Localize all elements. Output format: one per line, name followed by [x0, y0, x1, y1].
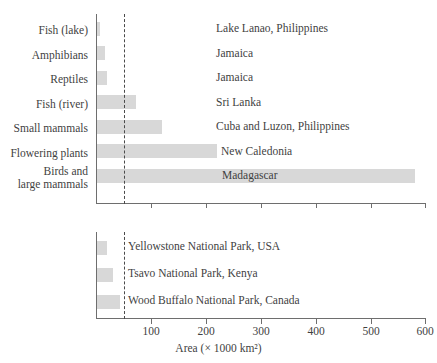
category-label: Birds and large mammals	[0, 165, 88, 190]
annotation-label: Jamaica	[216, 47, 253, 60]
x-tick-label: 300	[241, 325, 281, 337]
annotation-label: New Caledonia	[221, 145, 292, 158]
reference-line	[124, 232, 125, 319]
upper-axis-tick	[425, 204, 426, 208]
x-axis-tick	[206, 319, 207, 324]
annotation-label: Yellowstone National Park, USA	[128, 240, 280, 253]
bar-small-mammals	[97, 120, 162, 134]
upper-axis-tick	[151, 204, 152, 208]
category-label: Fish (lake)	[0, 24, 88, 37]
bar-fish-river	[97, 95, 136, 109]
bar-flowering-plants	[97, 144, 217, 158]
upper-axis-tick	[316, 204, 317, 208]
upper-axis-tick	[261, 204, 262, 208]
upper-axis-tick	[206, 204, 207, 208]
x-tick-label: 500	[351, 325, 391, 337]
category-label: Flowering plants	[0, 147, 88, 160]
category-label: Small mammals	[0, 122, 88, 135]
category-label: Fish (river)	[0, 98, 88, 111]
annotation-label: Tsavo National Park, Kenya	[128, 267, 258, 280]
bar-wood-buffalo	[97, 295, 120, 309]
x-tick-label: 100	[131, 325, 171, 337]
x-axis-tick	[316, 319, 317, 324]
bar-fish-lake	[97, 22, 100, 36]
x-axis-tick	[151, 319, 152, 324]
bar-amphibians	[97, 46, 105, 60]
category-label: Amphibians	[0, 49, 88, 62]
annotation-label: Madagascar	[222, 169, 278, 182]
annotation-label: Cuba and Luzon, Philippines	[216, 120, 350, 133]
bar-tsavo	[97, 268, 113, 282]
upper-y-axis	[96, 14, 97, 203]
bar-yellowstone	[97, 241, 107, 255]
upper-axis-tick	[371, 204, 372, 208]
annotation-label: Jamaica	[216, 71, 253, 84]
reference-line	[124, 14, 125, 204]
x-tick-label: 200	[186, 325, 226, 337]
x-axis-title: Area (× 1000 km²)	[0, 342, 437, 354]
x-axis-tick	[371, 319, 372, 324]
x-axis-tick	[261, 319, 262, 324]
x-tick-label: 400	[296, 325, 336, 337]
category-label: Reptiles	[0, 73, 88, 86]
lower-y-axis	[96, 232, 97, 318]
annotation-label: Lake Lanao, Philippines	[216, 22, 328, 35]
x-axis-tick	[425, 319, 426, 324]
x-tick-label: 600	[405, 325, 437, 337]
bar-chart-figure: Fish (lake) Amphibians Reptiles Fish (ri…	[0, 0, 437, 363]
bar-reptiles	[97, 71, 107, 85]
annotation-label: Wood Buffalo National Park, Canada	[128, 294, 300, 307]
annotation-label: Sri Lanka	[216, 96, 261, 109]
